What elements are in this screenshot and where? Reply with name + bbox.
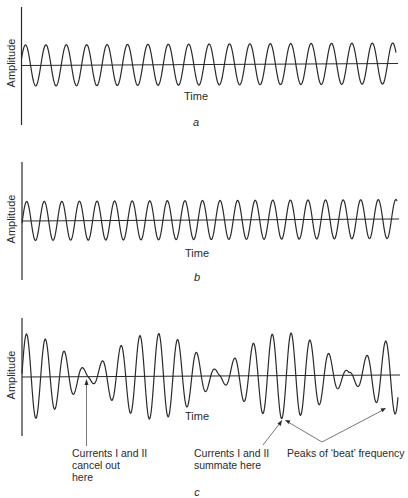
panel-caption: b (194, 271, 200, 283)
panel-caption: a (193, 116, 199, 128)
cancel-label-line1: Currents I and II (72, 447, 147, 459)
panel-c: Amplitude Time c Currents I and II cance… (5, 318, 405, 498)
summate-arrow (263, 420, 282, 445)
summate-label-line1: Currents I and II (194, 447, 269, 459)
cancel-label-line3: here (72, 471, 93, 483)
beat-frequency-figure: Amplitude Time a Amplitude Time b Amplit… (0, 0, 408, 498)
beat-label: Peaks of ‘beat’ frequency (287, 447, 405, 459)
x-axis-label: Time (185, 247, 209, 259)
x-axis (22, 64, 399, 66)
x-axis (22, 219, 399, 221)
y-axis-label: Amplitude (5, 351, 17, 400)
y-axis-label: Amplitude (5, 39, 17, 88)
beat-arrows (285, 408, 386, 442)
summate-label-line2: summate here (194, 459, 261, 471)
x-axis-label: Time (184, 90, 208, 102)
panel-b: Amplitude Time b (5, 162, 399, 283)
cancel-arrow (85, 379, 89, 446)
x-axis-label: Time (185, 410, 209, 422)
y-axis-label: Amplitude (5, 195, 17, 244)
panel-caption: c (194, 486, 200, 498)
panel-a: Amplitude Time a (5, 7, 398, 128)
cancel-label-line2: cancel out (72, 459, 120, 471)
